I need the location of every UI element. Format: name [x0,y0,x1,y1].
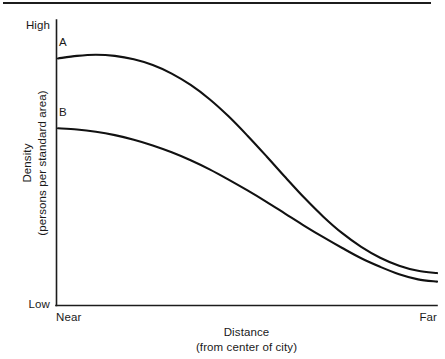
x-axis-title-line2: (from center of city) [56,340,437,355]
curve-label-b: B [59,106,67,118]
y-axis-title-line1: Density [20,48,35,278]
density-distance-figure: High Low Near Far A B Density (persons p… [0,0,445,359]
x-axis-tick-near: Near [56,311,81,323]
y-axis-tick-low: Low [0,298,50,310]
y-axis-title: Density (persons per standard area) [20,48,50,278]
plot-canvas [0,0,445,359]
x-axis-title-line1: Distance [56,325,437,340]
x-axis-title: Distance (from center of city) [56,325,437,355]
y-axis-tick-high: High [0,19,50,31]
curve-label-a: A [59,36,67,48]
y-axis-title-line2: (persons per standard area) [35,48,50,278]
curve-a-path [58,55,437,273]
x-axis-tick-far: Far [387,311,437,323]
